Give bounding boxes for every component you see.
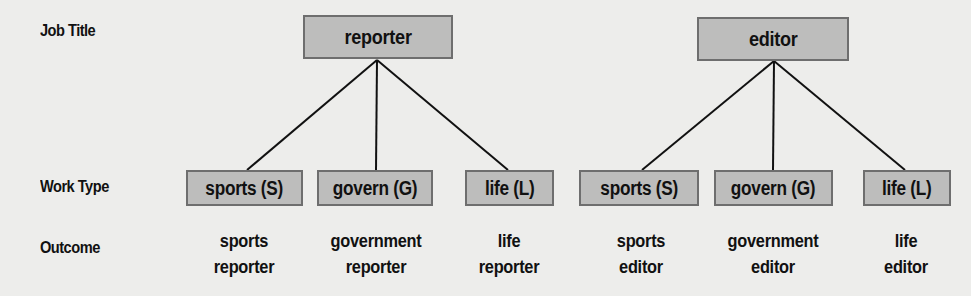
node-label: editor <box>749 27 798 51</box>
node-label: sports (S) <box>206 177 284 200</box>
row-label-outcome: Outcome <box>40 238 100 258</box>
connector-reporter-life <box>377 60 508 170</box>
outcome-line1: government <box>713 228 833 254</box>
outcome-line2: reporter <box>316 254 436 280</box>
outcome-editor-govern: government editor <box>703 228 843 280</box>
outcome-reporter-life: life reporter <box>439 228 579 280</box>
work-type-node-editor-sports: sports (S) <box>579 170 699 206</box>
outcome-reporter-govern: government reporter <box>306 228 446 280</box>
row-label-job-title: Job Title <box>40 21 95 41</box>
connector-editor-govern <box>773 61 774 170</box>
connector-editor-sports <box>642 61 774 170</box>
work-type-node-editor-govern: govern (G) <box>714 170 833 206</box>
outcome-line2: reporter <box>184 254 304 280</box>
node-label: life (L) <box>882 177 932 200</box>
job-title-node-reporter: reporter <box>303 15 453 59</box>
outcome-line1: government <box>316 228 436 254</box>
outcome-line1: life <box>449 228 569 254</box>
connector-reporter-sports <box>247 60 377 170</box>
node-label: govern (G) <box>333 177 417 200</box>
outcome-editor-sports: sports editor <box>571 228 711 280</box>
outcome-line1: sports <box>184 228 304 254</box>
job-title-node-editor: editor <box>697 17 849 61</box>
connector-reporter-govern <box>376 60 377 170</box>
work-type-node-reporter-life: life (L) <box>465 170 554 206</box>
node-label: reporter <box>344 25 411 49</box>
outcome-line1: sports <box>581 228 701 254</box>
outcome-line1: life <box>846 228 966 254</box>
outcome-line2: editor <box>846 254 966 280</box>
outcome-line2: editor <box>713 254 833 280</box>
node-label: sports (S) <box>600 177 678 200</box>
row-label-work-type: Work Type <box>40 177 109 197</box>
outcome-line2: reporter <box>449 254 569 280</box>
node-label: govern (G) <box>731 177 815 200</box>
outcome-line2: editor <box>581 254 701 280</box>
outcome-editor-life: life editor <box>836 228 971 280</box>
work-type-node-reporter-govern: govern (G) <box>317 170 433 206</box>
node-label: life (L) <box>485 177 535 200</box>
outcome-reporter-sports: sports reporter <box>174 228 314 280</box>
work-type-node-reporter-sports: sports (S) <box>186 170 303 206</box>
work-type-node-editor-life: life (L) <box>863 170 951 206</box>
connector-editor-life <box>774 61 905 170</box>
